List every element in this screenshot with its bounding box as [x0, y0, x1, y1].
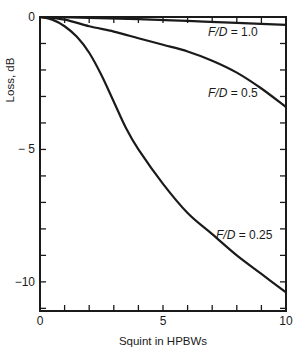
axis-ticks — [40, 17, 286, 311]
tick-labels: 05100− 5−10 — [15, 10, 293, 328]
series-label: F/D = 0.25 — [216, 228, 273, 242]
y-tick-label: −10 — [15, 275, 36, 289]
y-axis-title: Loss, dB — [4, 57, 16, 102]
y-tick-label: − 5 — [18, 142, 35, 156]
series-labels: F/D = 1.0F/D = 0.5F/D = 0.25 — [208, 25, 273, 242]
x-tick-label: 10 — [279, 314, 293, 328]
series-label: F/D = 1.0 — [208, 25, 258, 39]
x-axis-title: Squint in HPBWs — [119, 335, 207, 347]
series-curve — [40, 17, 286, 292]
data-curves — [40, 17, 286, 292]
x-tick-label: 0 — [37, 314, 44, 328]
plot-frame — [40, 17, 286, 311]
x-tick-label: 5 — [160, 314, 167, 328]
series-label: F/D = 0.5 — [208, 86, 258, 100]
loss-vs-squint-chart: 05100− 5−10 F/D = 1.0F/D = 0.5F/D = 0.25… — [0, 0, 303, 352]
y-tick-label: 0 — [28, 10, 35, 24]
